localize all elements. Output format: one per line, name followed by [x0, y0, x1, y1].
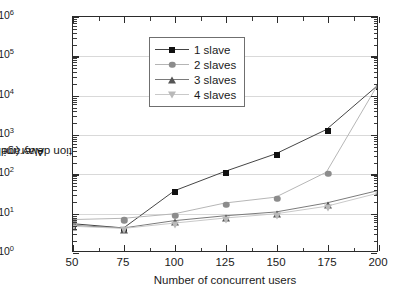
y-axis-tick-label: 101: [0, 207, 14, 217]
x-axis-tick-label: 75: [103, 256, 143, 268]
y-axis-tick: [73, 56, 79, 57]
y-axis-minor-tick: [73, 29, 77, 30]
legend-item-2-slaves[interactable]: 2 slaves: [155, 57, 236, 72]
x-axis-minor-tick: [303, 17, 304, 21]
y-axis-minor-tick: [73, 141, 77, 142]
y-axis-minor-tick: [374, 84, 378, 85]
y-axis-minor-tick: [374, 147, 378, 148]
y-axis-minor-tick: [73, 163, 77, 164]
y-axis-minor-tick: [73, 229, 77, 230]
y-axis-tick-label: 103: [0, 128, 14, 138]
y-axis-minor-tick: [73, 202, 77, 203]
y-axis-tick: [73, 174, 79, 175]
y-axis-minor-tick: [73, 178, 77, 179]
y-axis-minor-tick: [374, 123, 378, 124]
y-axis-minor-tick: [374, 151, 378, 152]
x-axis-tick-label: 150: [256, 256, 296, 268]
y-axis-minor-tick: [374, 23, 378, 24]
y-axis-minor-tick: [374, 77, 378, 78]
data-point-marker: [274, 152, 280, 158]
y-axis-minor-tick: [73, 190, 77, 191]
x-axis-tick: [328, 245, 329, 251]
legend-marker-circle-icon: [169, 61, 176, 68]
x-axis-tick: [124, 17, 125, 23]
y-axis-minor-tick: [374, 68, 378, 69]
y-axis-minor-tick: [73, 183, 77, 184]
legend-item-4-slaves[interactable]: 4 slaves: [155, 87, 236, 102]
y-axis-minor-tick: [73, 222, 77, 223]
data-point-marker: [120, 227, 128, 234]
x-axis-minor-tick: [354, 248, 355, 252]
y-axis-tick-label: 100: [0, 246, 14, 256]
y-axis-minor-tick: [73, 186, 77, 187]
y-axis-minor-tick: [73, 68, 77, 69]
y-axis-minor-tick: [374, 190, 378, 191]
data-point-marker: [223, 201, 230, 208]
x-axis-tick: [328, 17, 329, 23]
y-axis-minor-tick: [73, 139, 77, 140]
y-axis-minor-tick: [374, 100, 378, 101]
y-axis-minor-tick: [73, 84, 77, 85]
y-axis-minor-tick: [374, 139, 378, 140]
y-axis-minor-tick: [374, 202, 378, 203]
legend-label: 4 slaves: [194, 89, 236, 101]
x-axis-tick: [277, 245, 278, 251]
y-axis-minor-tick: [73, 77, 77, 78]
y-axis-minor-tick: [374, 116, 378, 117]
x-axis-tick: [379, 17, 380, 23]
x-axis-minor-tick: [150, 248, 151, 252]
y-axis-minor-tick: [374, 33, 378, 34]
y-axis-minor-tick: [374, 38, 378, 39]
y-axis-minor-tick: [374, 58, 378, 59]
y-axis-tick: [371, 253, 377, 254]
y-axis-tick-label: 105: [0, 49, 14, 59]
x-axis-tick: [124, 245, 125, 251]
y-axis-minor-tick: [374, 60, 378, 61]
x-axis-minor-tick: [354, 17, 355, 21]
y-axis-minor-tick: [374, 241, 378, 242]
y-axis-title: Average relative replication delay (mill…: [0, 0, 36, 304]
y-axis-tick: [73, 135, 79, 136]
y-axis-minor-tick: [374, 26, 378, 27]
y-axis-minor-tick: [73, 26, 77, 27]
y-axis-minor-tick: [374, 104, 378, 105]
y-axis-tick-label: 106: [0, 10, 14, 20]
y-axis-minor-tick: [73, 180, 77, 181]
y-axis-minor-tick: [73, 102, 77, 103]
data-point-marker: [121, 217, 128, 224]
y-axis-minor-tick: [73, 45, 77, 46]
y-axis-tick: [371, 174, 377, 175]
x-axis-minor-tick: [252, 17, 253, 21]
y-axis-minor-tick: [73, 62, 77, 63]
y-axis-minor-tick: [73, 65, 77, 66]
x-axis-tick: [379, 245, 380, 251]
legend-item-1-slave[interactable]: 1 slave: [155, 42, 236, 57]
data-point-marker: [325, 170, 332, 177]
legend-item-3-slaves[interactable]: 3 slaves: [155, 72, 236, 87]
data-point-marker: [324, 204, 332, 211]
y-axis-minor-tick: [374, 65, 378, 66]
y-axis-minor-tick: [374, 218, 378, 219]
legend-label: 3 slaves: [194, 74, 236, 86]
y-axis-minor-tick: [374, 62, 378, 63]
y-axis-tick: [371, 17, 377, 18]
legend-marker-triangle-up-icon: [168, 76, 176, 83]
y-axis-minor-tick: [374, 180, 378, 181]
y-axis-minor-tick: [374, 137, 378, 138]
x-axis-tick: [277, 17, 278, 23]
plot-area: 1 slave2 slaves3 slaves4 slaves: [72, 16, 378, 252]
y-axis-minor-tick: [374, 108, 378, 109]
y-axis-minor-tick: [73, 111, 77, 112]
data-point-marker: [171, 221, 179, 228]
y-axis-tick: [371, 56, 377, 57]
x-axis-minor-tick: [201, 17, 202, 21]
data-point-marker: [274, 195, 281, 202]
chart-figure: Average relative replication delay (mill…: [0, 0, 396, 304]
y-axis-tick: [73, 253, 79, 254]
x-axis-tick-label: 50: [52, 256, 92, 268]
y-axis-minor-tick: [374, 111, 378, 112]
x-axis-minor-tick: [201, 248, 202, 252]
y-axis-minor-tick: [73, 60, 77, 61]
x-axis-minor-tick: [150, 17, 151, 21]
legend-key: [155, 59, 189, 71]
